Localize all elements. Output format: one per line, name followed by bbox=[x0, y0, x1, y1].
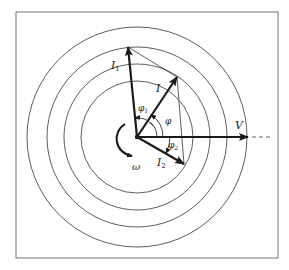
rotation-arrow bbox=[117, 124, 132, 156]
phasor-i1 bbox=[128, 47, 137, 137]
label-omega: ω bbox=[132, 161, 140, 172]
label-i: I bbox=[155, 82, 161, 95]
label-v: V bbox=[235, 119, 244, 132]
label-i2: I2 bbox=[156, 156, 166, 170]
origin-dot bbox=[135, 135, 139, 139]
phasor-diagram: V I1 I I2 φ1 φ φ2 ω bbox=[0, 0, 289, 270]
angle-arc-phi-inner bbox=[150, 122, 157, 137]
label-phi1: φ1 bbox=[138, 103, 148, 114]
label-phi2: φ2 bbox=[168, 140, 178, 151]
diagram-frame bbox=[16, 12, 278, 258]
label-phi: φ bbox=[165, 116, 172, 126]
label-i1: I1 bbox=[110, 59, 120, 73]
